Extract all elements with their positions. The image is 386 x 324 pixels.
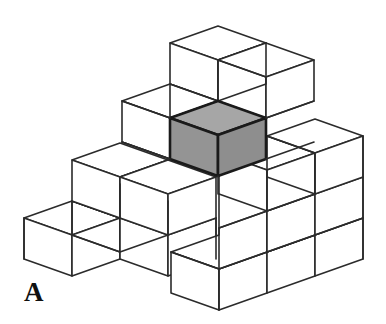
highlighted-cube — [170, 101, 266, 176]
isometric-cube-drawing — [0, 0, 386, 324]
figure-canvas: A — [0, 0, 386, 324]
figure-label: A — [24, 279, 44, 306]
